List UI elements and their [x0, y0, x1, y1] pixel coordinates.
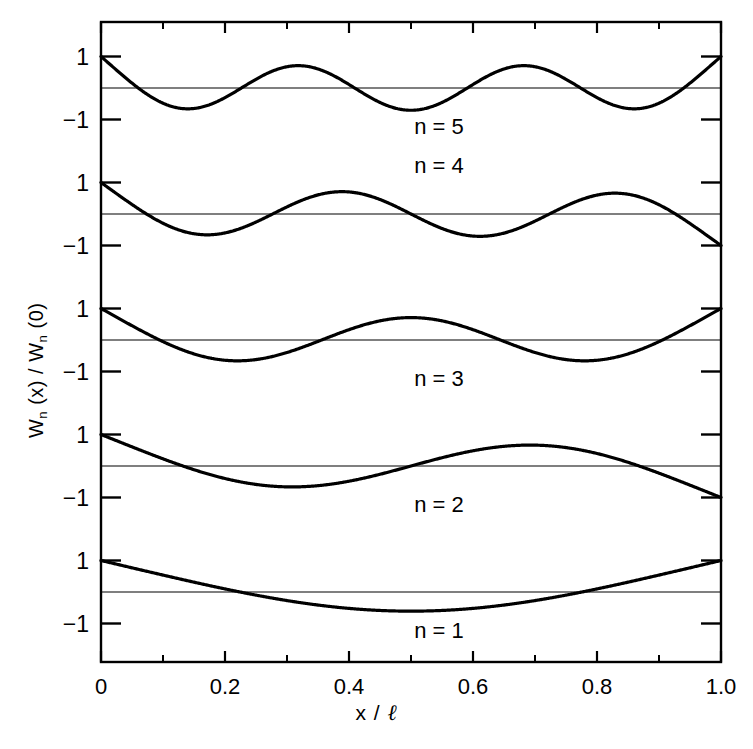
y-tick-label-plus-one: 1 — [76, 170, 89, 196]
series-label: n = 4 — [414, 153, 464, 178]
plot-canvas: 00.20.40.60.81.01−1n = 11−1n = 21−1n = 3… — [0, 0, 753, 749]
y-tick-label-plus-one: 1 — [76, 44, 89, 70]
script-ell-glyph: ℓ — [387, 700, 397, 725]
series-label: n = 2 — [414, 492, 464, 517]
series-label: n = 1 — [414, 618, 464, 643]
x-tick-label: 0.8 — [582, 674, 613, 699]
beam-mode-shapes-figure: 00.20.40.60.81.01−1n = 11−1n = 21−1n = 3… — [0, 0, 753, 749]
x-axis-label-text: x / ℓ — [355, 701, 397, 724]
y-tick-label-minus-one: −1 — [63, 107, 89, 133]
mode-shape-curve — [101, 561, 721, 612]
x-tick-label: 0.6 — [458, 674, 489, 699]
x-tick-label: 1.0 — [706, 674, 737, 699]
y-tick-label-minus-one: −1 — [63, 359, 89, 385]
series-label: n = 5 — [414, 114, 464, 139]
x-tick-label: 0.4 — [334, 674, 365, 699]
mode-shape-curve — [101, 309, 721, 361]
y-tick-label-plus-one: 1 — [76, 296, 89, 322]
x-axis-label: x / ℓ — [0, 700, 753, 726]
y-tick-label-minus-one: −1 — [63, 233, 89, 259]
y-tick-label-plus-one: 1 — [76, 422, 89, 448]
y-tick-label-minus-one: −1 — [63, 611, 89, 637]
series-label: n = 3 — [414, 366, 464, 391]
y-tick-label-minus-one: −1 — [63, 485, 89, 511]
x-tick-label: 0.2 — [210, 674, 241, 699]
plot-frame — [101, 22, 721, 662]
mode-shape-curve — [101, 57, 721, 111]
y-tick-label-plus-one: 1 — [76, 548, 89, 574]
x-tick-label: 0 — [95, 674, 107, 699]
